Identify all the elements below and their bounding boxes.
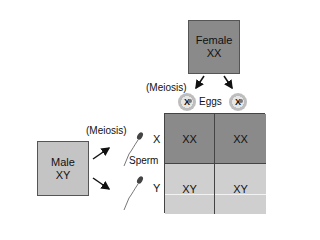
female-parent-box: Female XX	[188, 20, 240, 74]
male-meiosis-label: (Meiosis)	[86, 125, 127, 136]
male-title: Male	[51, 156, 75, 169]
sperm-label: Sperm	[129, 155, 158, 166]
female-left-arrow	[196, 76, 204, 88]
punnett-cell-xx: XX	[215, 114, 266, 164]
sperm-y-row-label: Y	[153, 182, 160, 194]
eggs-label: Eggs	[199, 96, 222, 107]
punnett-cell-xx: XX	[165, 114, 215, 164]
punnett-cell-xy: XY	[215, 164, 266, 214]
male-lower-arrow	[93, 178, 109, 189]
female-meiosis-label: (Meiosis)	[146, 82, 187, 93]
sperm-x-row-label: X	[153, 133, 160, 145]
male-parent-box: Male XY	[37, 141, 89, 196]
female-genotype: XX	[207, 47, 222, 60]
female-right-arrow	[224, 76, 232, 88]
punnett-cell-xy: XY	[165, 164, 215, 214]
male-genotype: XY	[56, 169, 71, 182]
sperm-y-icon	[124, 175, 144, 210]
male-upper-arrow	[93, 148, 109, 159]
female-title: Female	[196, 34, 233, 47]
egg-cell-icon: X	[178, 93, 196, 111]
punnett-square: XX XX XY XY	[164, 113, 265, 213]
egg-cell-icon: X	[229, 93, 247, 111]
